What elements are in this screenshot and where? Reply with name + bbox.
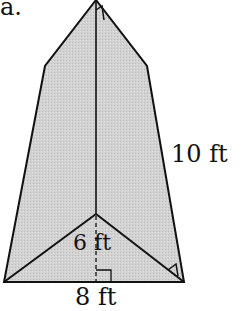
part-label: a. bbox=[0, 0, 22, 21]
pyramid-diagram: a. 10 ft 6 ft 8 ft bbox=[0, 0, 244, 311]
slant-height-label: 10 ft bbox=[171, 140, 228, 168]
base-height-label: 6 ft bbox=[73, 230, 111, 255]
base-edge-label: 8 ft bbox=[75, 283, 117, 311]
